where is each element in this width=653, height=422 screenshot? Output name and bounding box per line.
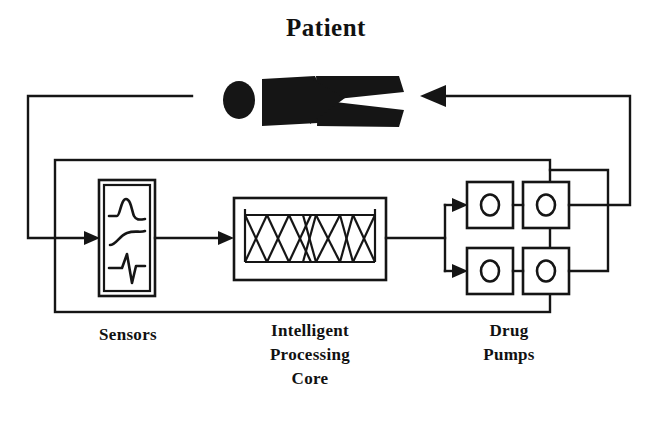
pump-lower-left[interactable] [467,248,513,294]
sensors-outer-box [99,180,155,296]
neural-network-icon [245,209,375,262]
waveform-icon [109,199,145,283]
delivery-path-wire [420,85,630,271]
sensors-label: Sensors [99,325,157,344]
pump-upper-left[interactable] [467,182,513,228]
core-label-line1: Intelligent [271,321,349,340]
pressure-bump-wave-icon [109,199,145,220]
patient-silhouette-icon [223,76,404,127]
sense-path-wire [28,96,192,245]
pumps-label-line2: Pumps [483,345,535,364]
intelligent-processing-core-block[interactable] [234,198,386,280]
drug-pumps-block[interactable] [467,182,569,294]
page-title: Patient [286,14,366,41]
core-input-arrow-icon [218,231,234,245]
sensors-block[interactable] [99,180,155,296]
core-to-pumps-wire [386,198,468,278]
s-curve-wave-icon [110,231,145,245]
sense-arrow-icon [84,231,100,245]
pump-upper-input-arrow-icon [452,198,468,212]
patient-head-icon [223,81,255,119]
delivery-arrow-icon [420,85,446,107]
core-label-line2: Processing [270,345,350,364]
core-label-line3: Core [292,369,329,388]
pump-lower-input-arrow-icon [452,264,468,278]
sensors-inner-box [104,185,150,291]
pump-lower-right[interactable] [523,248,569,294]
pump-upper-right[interactable] [523,182,569,228]
pumps-label-line1: Drug [490,321,529,340]
ecg-spike-wave-icon [109,254,145,283]
sensors-to-core-wire [155,231,234,245]
closed-loop-drug-delivery-diagram: Patient [0,0,653,422]
